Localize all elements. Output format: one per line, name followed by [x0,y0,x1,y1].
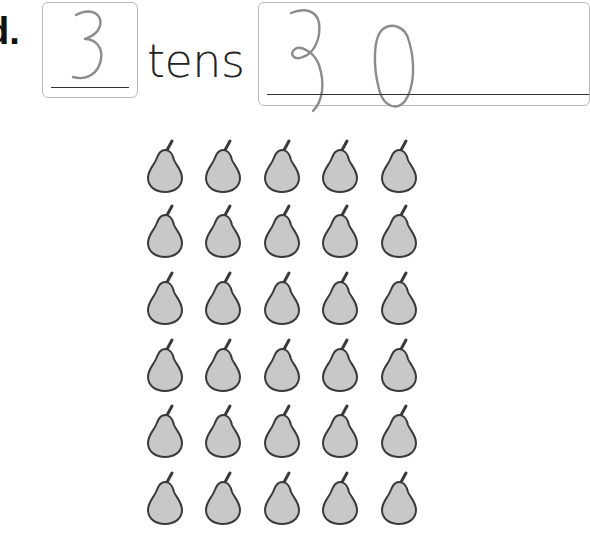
pear-icon [382,206,416,257]
pear-icon [148,340,182,391]
pear-body [323,415,357,457]
pear-icon [265,206,299,257]
pear-body [382,482,416,524]
pear-body [265,282,299,324]
pear-icon [265,340,299,391]
pear-icon [206,406,240,457]
pear-body [382,282,416,324]
pear-icon [265,273,299,324]
pear-icon [206,206,240,257]
pear-icon [323,206,357,257]
pear-body [323,349,357,391]
pear-body [265,215,299,257]
pear-body [206,215,240,257]
pear-icon [206,473,240,524]
pear-body [382,415,416,457]
pear-icon [206,273,240,324]
pear-body [382,150,416,192]
pear-body [265,150,299,192]
pear-body [265,415,299,457]
pear-icon [206,141,240,192]
pear-body [323,215,357,257]
pear-body [206,415,240,457]
pear-icon [148,206,182,257]
pear-body [206,482,240,524]
pear-icon [382,340,416,391]
pear-icon [382,473,416,524]
pear-body [323,282,357,324]
pear-icon [265,141,299,192]
pear-icon [382,273,416,324]
pear-icon [148,141,182,192]
pear-icon [323,406,357,457]
pear-icon [382,406,416,457]
pear-icon [382,141,416,192]
pear-icon [148,473,182,524]
pear-body [265,349,299,391]
pear-body [206,282,240,324]
pear-body [323,482,357,524]
pear-icon [323,473,357,524]
pear-icon [323,141,357,192]
pear-body [206,150,240,192]
pear-icon [265,473,299,524]
pear-icon [206,340,240,391]
pear-body [265,482,299,524]
pear-body [148,482,182,524]
pear-body [148,150,182,192]
pear-icon [148,273,182,324]
pear-body [148,349,182,391]
pear-body [382,215,416,257]
pear-body [382,349,416,391]
pear-body [206,349,240,391]
pear-icon [323,340,357,391]
pear-body [323,150,357,192]
pear-body [148,215,182,257]
pear-icon [323,273,357,324]
pear-icon [148,406,182,457]
pear-icon [265,406,299,457]
pear-body [148,415,182,457]
pear-body [148,282,182,324]
